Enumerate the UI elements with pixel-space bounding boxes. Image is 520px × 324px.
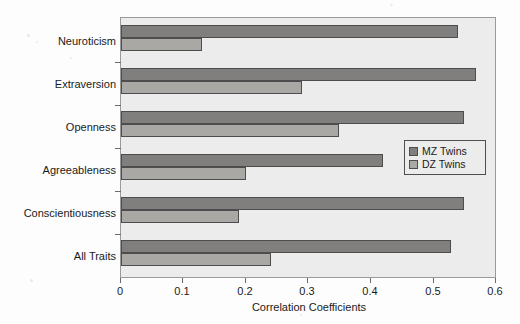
bar-dz-all-traits (121, 253, 271, 266)
legend-label-dz: DZ Twins (422, 158, 466, 170)
bar-dz-conscientiousness (121, 210, 239, 223)
bar-mz-conscientiousness (121, 197, 464, 210)
y-axis-label-conscientiousness: Conscientiousness (0, 207, 116, 219)
y-axis-label-openness: Openness (0, 121, 116, 133)
legend-swatch-dz-icon (409, 160, 418, 169)
bar-dz-extraversion (121, 81, 302, 94)
legend-swatch-mz-icon (409, 147, 418, 156)
x-axis-tick (433, 278, 434, 283)
y-axis-tick (115, 105, 121, 106)
y-axis-label-all-traits: All Traits (0, 250, 116, 262)
legend: MZ Twins DZ Twins (404, 140, 486, 175)
bar-dz-neuroticism (121, 38, 202, 51)
scan-artifact (30, 279, 33, 282)
x-axis-tick-label-1: 0.1 (174, 285, 189, 297)
y-axis-tick (115, 191, 121, 192)
y-axis-label-extraversion: Extraversion (0, 78, 116, 90)
legend-item-mz: MZ Twins (409, 145, 481, 157)
x-axis-title-text: Correlation Coefficients (252, 301, 366, 313)
bar-dz-agreeableness (121, 167, 246, 180)
scan-artifact (300, 314, 302, 316)
bar-mz-openness (121, 111, 464, 124)
x-axis-tick-label-0: 0 (117, 285, 123, 297)
y-axis-tick (115, 234, 121, 235)
legend-item-dz: DZ Twins (409, 158, 481, 170)
x-axis-tick-label-5: 0.5 (425, 285, 440, 297)
y-axis-tick (115, 62, 121, 63)
plot-area: MZ Twins DZ Twins (120, 17, 496, 278)
x-axis-tick (495, 278, 496, 283)
x-axis-title: Correlation Coefficients (0, 301, 520, 313)
y-axis-tick (115, 148, 121, 149)
legend-label-mz: MZ Twins (422, 145, 467, 157)
bar-mz-extraversion (121, 68, 476, 81)
y-axis-label-neuroticism: Neuroticism (0, 35, 116, 47)
bar-mz-agreeableness (121, 154, 383, 167)
x-axis-tick (245, 278, 246, 283)
x-axis-tick-label-6: 0.6 (487, 285, 502, 297)
x-axis-tick-label-3: 0.3 (299, 285, 314, 297)
bar-chart-figure: MZ Twins DZ Twins Neuroticism Extraversi… (0, 0, 520, 324)
x-axis-tick (307, 278, 308, 283)
scan-artifact (70, 57, 72, 59)
x-axis-tick (120, 278, 121, 283)
x-axis-tick-label-4: 0.4 (362, 285, 377, 297)
bar-dz-openness (121, 124, 339, 137)
x-axis-tick-label-2: 0.2 (237, 285, 252, 297)
bar-mz-all-traits (121, 240, 451, 253)
bar-mz-neuroticism (121, 25, 458, 38)
scan-artifact (390, 4, 393, 6)
x-axis-tick (182, 278, 183, 283)
x-axis-tick (370, 278, 371, 283)
y-axis-label-agreeableness: Agreeableness (0, 164, 116, 176)
